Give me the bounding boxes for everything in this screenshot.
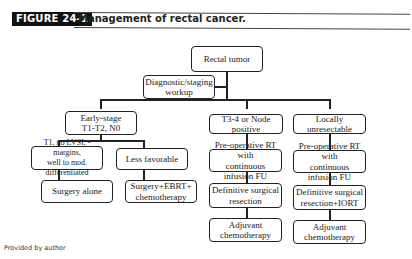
connector <box>100 99 102 109</box>
node-lu-adjuvant-chemo: Adjuvant chemotherapy <box>293 220 366 244</box>
connector <box>143 140 145 148</box>
source-credit: Provided by author <box>4 244 66 252</box>
figure-title: Management of rectal cancer. <box>78 12 246 26</box>
node-t34-definitive-resection: Definitive surgical resection <box>209 183 282 208</box>
connector <box>329 99 331 109</box>
connector <box>100 99 330 101</box>
node-less-favorable: Less favorable <box>116 148 188 170</box>
node-locally-unresectable: Locally unresectable <box>293 114 366 134</box>
node-lu-preop-rt: Pre-operative RT with continuous infusio… <box>293 150 366 173</box>
node-t1-favorable: T1, no LVSI, - margins, well to mod. dif… <box>31 146 103 170</box>
node-diagnostic-workup: Diagnostic/staging workup <box>143 75 215 99</box>
connector <box>214 86 227 88</box>
connector <box>246 99 248 109</box>
node-t3-4-node-positive: T3-4 or Node positive <box>209 114 283 134</box>
node-surgery-ebrt-chemo: Surgery+EBRT+ chemotherapy <box>125 180 197 203</box>
node-surgery-alone: Surgery alone <box>41 180 113 203</box>
node-lu-definitive-resection-iort: Definitive surgical resection+IORT <box>293 185 366 210</box>
title-rule-bottom <box>74 27 410 30</box>
node-t34-preop-rt: Pre-operative RT with continuous infusio… <box>209 149 282 172</box>
node-rectal-tumor: Rectal tumor <box>191 46 263 72</box>
node-t34-adjuvant-chemo: Adjuvant chemotherapy <box>209 218 282 242</box>
node-early-stage: Early-stage T1-T2, N0 <box>65 111 137 135</box>
